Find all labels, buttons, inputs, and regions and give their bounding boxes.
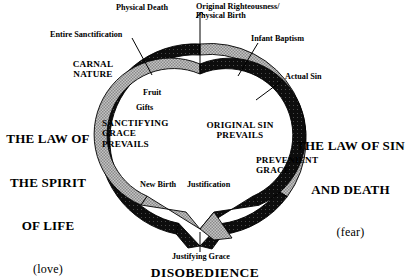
label-justification: Justification (187, 180, 247, 189)
law-spirit-line1: THE LAW OF (0, 132, 96, 147)
law-spirit-line4: (love) (0, 263, 96, 276)
label-law-of-the-spirit-of-life: THE LAW OF THE SPIRIT OF LIFE (love) (0, 103, 96, 279)
label-gifts: Gifts (136, 103, 176, 112)
label-sanctifying-grace-prevails: SANCTIFYING GRACE PREVAILS (102, 118, 182, 149)
law-spirit-line3: OF LIFE (0, 219, 96, 234)
label-carnal-nature: CARNAL NATURE (62, 59, 124, 80)
law-sin-line1: THE LAW OF SIN (296, 139, 405, 154)
label-disobedience: DISOBEDIENCE (130, 265, 280, 279)
label-entire-sanctification: Entire Sanctification (50, 30, 150, 39)
law-sin-line2: AND DEATH (296, 183, 405, 198)
law-spirit-line2: THE SPIRIT (0, 176, 96, 191)
label-original-righteousness-physical-birth: Original Righteousness/ Physical Birth (196, 2, 316, 20)
label-original-sin-prevails: ORIGINAL SIN PREVAILS (196, 120, 284, 141)
label-physical-death: Physical Death (96, 3, 188, 12)
label-new-birth: New Birth (140, 180, 190, 189)
law-sin-line3: (fear) (296, 226, 405, 239)
label-infant-baptism: Infant Baptism (251, 34, 341, 43)
label-actual-sin: Actual Sin (285, 72, 355, 81)
label-law-of-sin-and-death: THE LAW OF SIN AND DEATH (fear) (296, 110, 405, 269)
label-justifying-grace: Justifying Grace (155, 252, 247, 261)
diagram-canvas: Physical Death Original Righteousness/ P… (0, 0, 405, 279)
label-fruit: Fruit (143, 88, 183, 97)
